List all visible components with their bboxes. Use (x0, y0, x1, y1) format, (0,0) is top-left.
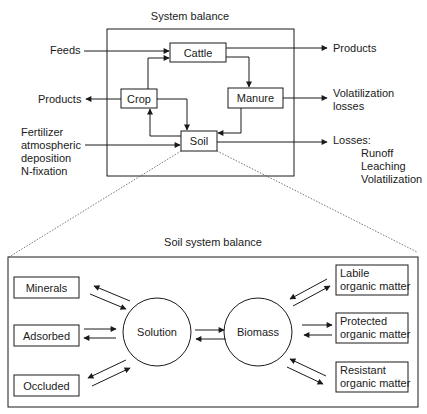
exchange-arrows (84, 279, 332, 386)
fertilizer-line-4: N-fixation (21, 165, 67, 177)
pool-adsorbed: Adsorbed (14, 325, 79, 346)
node-crop-label: Crop (127, 93, 151, 105)
pool-solution-label: Solution (137, 326, 177, 338)
nutrient-balance-diagram: System balance Cattle Crop Manure Soil (0, 0, 427, 414)
node-cattle-label: Cattle (184, 47, 213, 59)
fertilizer-line-3: deposition (21, 152, 71, 164)
labile-line-2: organic matter (340, 280, 411, 292)
protected-line-1: Protected (340, 315, 387, 327)
soil-system-balance-title: Soil system balance (164, 236, 262, 248)
output-volatilization-label: Volatilization losses (333, 87, 394, 112)
node-soil: Soil (181, 131, 217, 151)
losses-item-runoff: Runoff (361, 147, 394, 159)
pool-occluded: Occluded (14, 375, 79, 396)
losses-item-volatilization: Volatilization (361, 173, 422, 185)
volatilization-line-1: Volatilization (333, 87, 394, 99)
pool-resistant-organic-matter: Resistant organic matter (336, 362, 411, 392)
input-fertilizer-label: Fertilizer atmospheric deposition N-fixa… (21, 126, 81, 177)
fertilizer-line-1: Fertilizer (21, 126, 64, 138)
node-cattle: Cattle (170, 43, 226, 62)
losses-title: Losses: (333, 134, 371, 146)
resistant-line-1: Resistant (340, 364, 386, 376)
node-manure-label: Manure (237, 92, 274, 104)
output-products-left-label: Products (38, 93, 82, 105)
pool-minerals-label: Minerals (26, 282, 68, 294)
labile-line-1: Labile (340, 267, 369, 279)
resistant-line-2: organic matter (340, 377, 411, 389)
pool-biomass: Biomass (224, 298, 292, 366)
pool-solution: Solution (123, 298, 191, 366)
pool-occluded-label: Occluded (23, 380, 69, 392)
output-products-right-label: Products (333, 42, 377, 54)
pool-adsorbed-label: Adsorbed (23, 330, 70, 342)
pool-labile-organic-matter: Labile organic matter (336, 265, 411, 295)
pool-biomass-label: Biomass (237, 326, 280, 338)
fertilizer-line-2: atmospheric (21, 139, 81, 151)
system-balance-title: System balance (151, 10, 229, 22)
node-crop: Crop (121, 89, 157, 108)
internal-flow-arrows (84, 48, 327, 145)
node-soil-label: Soil (190, 135, 208, 147)
output-losses-label: Losses: Runoff Leaching Volatilization (333, 134, 422, 185)
node-manure: Manure (228, 88, 283, 108)
protected-line-2: organic matter (340, 328, 411, 340)
volatilization-line-2: losses (333, 100, 365, 112)
input-feeds-label: Feeds (50, 44, 81, 56)
losses-item-leaching: Leaching (361, 160, 406, 172)
pool-minerals: Minerals (14, 277, 79, 298)
pool-protected-organic-matter: Protected organic matter (336, 313, 411, 343)
